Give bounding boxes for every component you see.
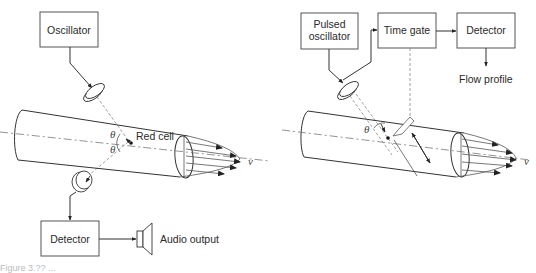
pulsed-oscillator-box: Pulsed oscillator (301, 13, 358, 49)
pulsed-label-line2: oscillator (309, 30, 351, 42)
right-vessel-axis (282, 130, 530, 160)
beam-edge-1 (350, 96, 392, 155)
receiver-wire (70, 192, 76, 220)
right-detector-box: Detector (457, 13, 515, 48)
transducer-icon (335, 79, 361, 103)
detector-label: Detector (50, 233, 90, 245)
oscillator-box: Oscillator (40, 12, 98, 47)
range-arrow-up (412, 133, 430, 163)
time-gate-label: Time gate (384, 24, 430, 36)
audio-output-label: Audio output (160, 233, 219, 245)
transmitter-transducer-icon (81, 81, 107, 105)
pulsed-label-line1: Pulsed (313, 18, 345, 30)
velocity-profile-arrows (186, 142, 240, 174)
sample-volume-icon (393, 117, 414, 136)
right-theta: θ (364, 123, 370, 135)
theta-top: θ (110, 128, 116, 140)
red-cell-label: Red cell (136, 130, 174, 142)
time-gate-box: Time gate (378, 13, 436, 48)
left-cw-doppler-diagram: Oscillator (0, 12, 270, 256)
vessel-axis (0, 132, 270, 161)
right-angle-arc (374, 123, 385, 128)
right-velocity-label: v (524, 155, 529, 167)
detector-box: Detector (41, 221, 99, 256)
sample-point (386, 136, 390, 140)
doppler-flowmeter-figure: Oscillator (0, 0, 536, 273)
oscillator-wire (70, 47, 92, 88)
flow-profile-label: Flow profile (459, 73, 513, 85)
speaker-icon (137, 223, 152, 255)
oscillator-to-transducer-wire (329, 49, 343, 83)
figure-caption: Figure 3.?? ... (0, 263, 56, 273)
theta-bottom: θ (110, 143, 116, 155)
velocity-label: v (248, 155, 253, 167)
oscillator-label: Oscillator (47, 24, 91, 36)
blood-vessel (0, 110, 270, 179)
receiver-transducer-icon (72, 171, 92, 192)
right-pulsed-doppler-diagram: Pulsed oscillator Time gate Detector Flo… (282, 13, 530, 178)
right-velocity-profile-arrows (462, 139, 516, 173)
right-detector-label: Detector (466, 24, 506, 36)
